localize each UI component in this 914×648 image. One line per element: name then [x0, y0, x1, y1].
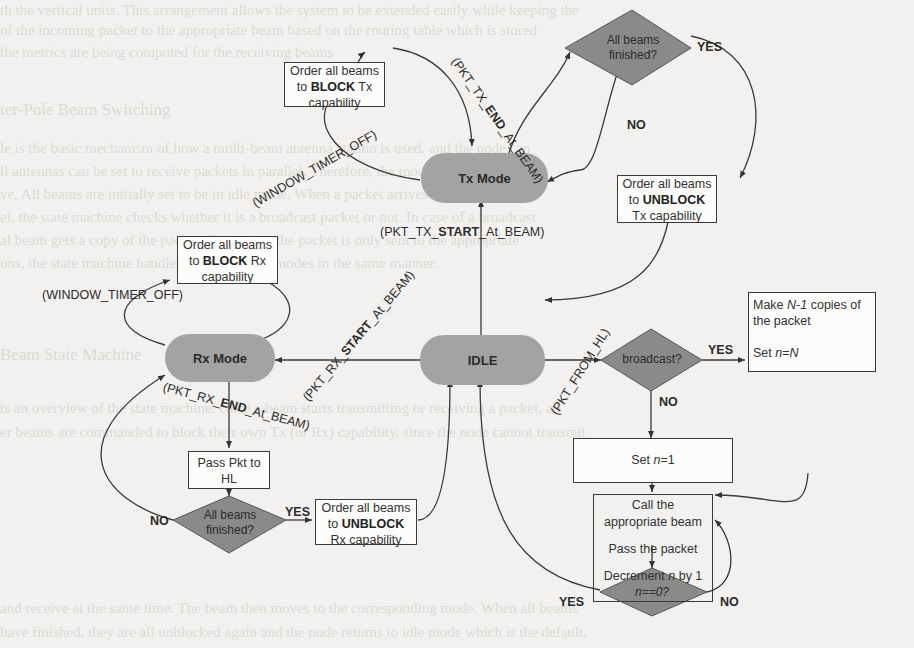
box-text: capability: [178, 269, 277, 285]
edge-label-window-timer-rx: (WINDOW_TIMER_OFF): [42, 288, 183, 302]
box-text: to BLOCK Tx: [285, 79, 384, 95]
branch-label-rx-no: NO: [150, 514, 169, 528]
box-text: HL: [189, 471, 269, 487]
box-text: the packet: [753, 313, 875, 329]
decision-n-zero-label: n==0?: [622, 585, 682, 600]
branch-label-broadcast-yes: YES: [708, 343, 733, 357]
state-idle: IDLE: [420, 335, 545, 385]
box-unblock-rx: Order all beams to UNBLOCK Rx capability: [315, 499, 417, 545]
box-block-rx: Order all beams to BLOCK Rx capability: [177, 236, 278, 284]
box-text: Order all beams: [178, 237, 277, 253]
box-text: Set n=1: [574, 452, 732, 468]
branch-label-rx-yes: YES: [285, 505, 310, 519]
branch-label-tx-yes: YES: [697, 40, 722, 54]
edge-n-yes-to-idle: [480, 380, 600, 590]
branch-label-n-no: NO: [720, 595, 739, 609]
decision-tx-all-finished-label: All beamsfinished?: [598, 33, 668, 63]
box-text: Order all beams: [618, 176, 716, 192]
box-text: Set n=N: [753, 345, 875, 361]
box-text: Order all beams: [285, 63, 384, 79]
box-set-n-1: Set n=1: [573, 438, 733, 483]
box-unblock-tx: Order all beams to UNBLOCK Tx capability: [617, 175, 717, 223]
box-pass-pkt: Pass Pkt to HL: [188, 451, 270, 489]
box-text: appropriate beam: [594, 514, 712, 531]
edge-rx-no: [101, 375, 173, 520]
state-rx-mode: Rx Mode: [165, 334, 275, 382]
box-block-tx: Order all beams to BLOCK Tx capability: [284, 62, 385, 107]
branch-label-n-yes: YES: [559, 595, 584, 609]
box-text: Make N-1 copies of: [753, 297, 875, 313]
branch-label-broadcast-no: NO: [659, 395, 678, 409]
edge-unblock-tx-to-idle: [545, 222, 668, 300]
box-text: Call the: [594, 497, 712, 514]
box-text: to BLOCK Rx: [178, 253, 277, 269]
box-text: Order all beams: [316, 500, 416, 516]
decision-broadcast-label: broadcast?: [612, 352, 692, 367]
branch-label-tx-no: NO: [627, 118, 646, 132]
edge-unblock-rx-to-idle: [418, 380, 450, 520]
edge-tx-yes: [691, 36, 756, 178]
box-make-copies: Make N-1 copies of the packet Set n=N: [748, 292, 876, 372]
box-text: Pass the packet: [594, 541, 712, 558]
box-text: Rx capability: [316, 532, 416, 548]
box-text: to UNBLOCK: [618, 192, 716, 208]
box-text: Tx capability: [618, 208, 716, 224]
box-text: to UNBLOCK: [316, 516, 416, 532]
decision-rx-all-finished-label: All beamsfinished?: [195, 508, 265, 538]
box-text: Pass Pkt to: [189, 455, 269, 471]
box-text: capability: [285, 95, 384, 111]
edge-label-pkt-tx-start: (PKT_TX_START_At_BEAM): [380, 225, 544, 239]
box-text: Decrement n by 1: [594, 568, 712, 585]
